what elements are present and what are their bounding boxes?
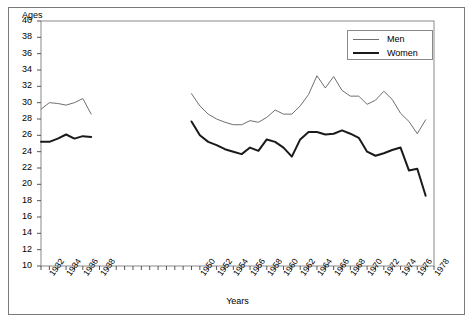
legend-swatch-women-icon [353,52,379,54]
y-tick-label: 20 [10,178,32,188]
series-line-men [192,76,426,134]
y-tick-label: 18 [10,195,32,205]
legend-entry-men: Men [353,32,405,46]
y-tick-label: 24 [10,146,32,156]
series-line-men [41,99,91,115]
y-tick-label: 28 [10,113,32,123]
y-tick-label: 26 [10,129,32,139]
legend-swatch-men-icon [353,39,379,40]
y-tick-label: 12 [10,244,32,254]
series-lines [41,76,426,196]
legend-label-women: Women [387,48,418,58]
series-line-women [192,121,426,195]
y-tick-label: 34 [10,64,32,74]
y-tick-label: 16 [10,211,32,221]
series-line-women [41,135,91,142]
legend-entry-women: Women [353,46,418,60]
y-tick-label: 10 [10,260,32,270]
legend-label-men: Men [387,34,405,44]
y-tick-label: 36 [10,48,32,58]
chart-figure: Ages Years 40383634323028262422201816141… [0,0,475,327]
y-tick-label: 40 [10,15,32,25]
chart-legend: Men Women [347,30,433,60]
y-tick-label: 32 [10,80,32,90]
y-tick-label: 14 [10,227,32,237]
y-tick-label: 30 [10,97,32,107]
y-tick-label: 38 [10,31,32,41]
y-axis-ticks [37,21,41,266]
y-tick-label: 22 [10,162,32,172]
